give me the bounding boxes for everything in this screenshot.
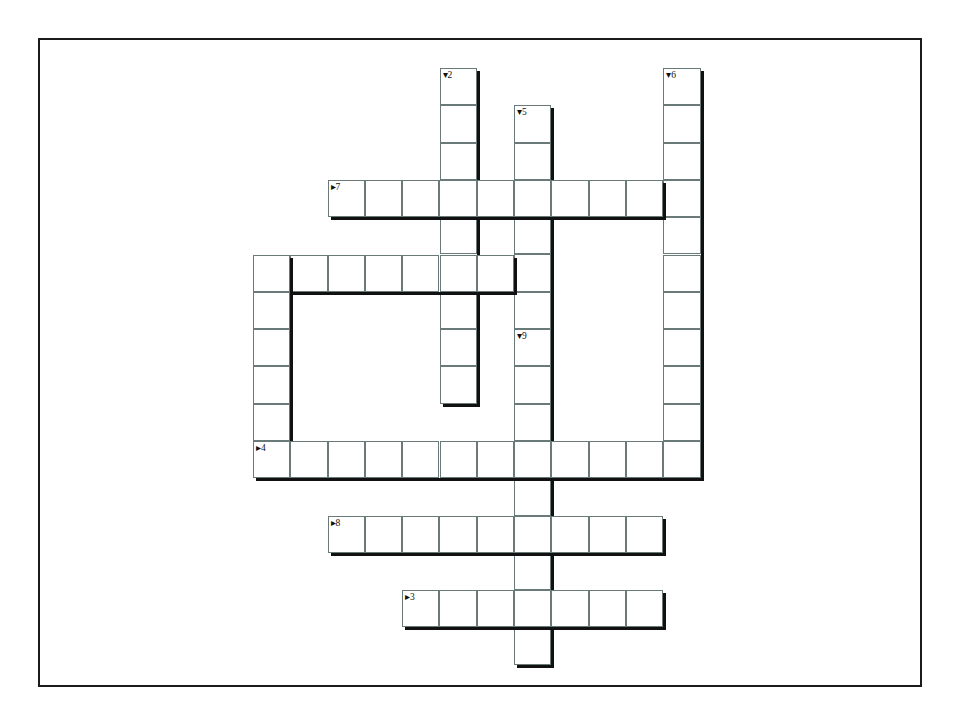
cell[interactable] xyxy=(402,255,439,292)
cell[interactable] xyxy=(514,627,551,664)
cell[interactable] xyxy=(290,441,327,478)
cell[interactable] xyxy=(402,180,439,217)
clue-number-6: ▾6 xyxy=(666,70,676,81)
cell[interactable] xyxy=(253,366,290,403)
cell[interactable] xyxy=(365,255,402,292)
cell[interactable] xyxy=(440,329,477,366)
cell[interactable] xyxy=(514,590,551,627)
word-across-3[interactable]: ▸3 xyxy=(402,590,663,627)
cell[interactable] xyxy=(626,180,663,217)
cell[interactable]: ▸4 xyxy=(253,441,290,478)
clue-number-2: ▾2 xyxy=(443,70,453,81)
clue-number-5: ▾5 xyxy=(517,107,527,118)
word-across-1[interactable]: ▸1/▾10 xyxy=(253,255,514,292)
word-down-2[interactable]: ▾2 xyxy=(440,68,477,404)
cell[interactable] xyxy=(663,143,700,180)
word-across-7[interactable]: ▸7 xyxy=(328,180,664,217)
clue-number-9: ▾9 xyxy=(517,331,527,342)
cell[interactable] xyxy=(514,441,551,478)
cell[interactable] xyxy=(663,441,700,478)
cell[interactable] xyxy=(514,404,551,441)
cell[interactable] xyxy=(365,180,402,217)
cell[interactable] xyxy=(663,292,700,329)
cell[interactable] xyxy=(328,255,365,292)
puzzle-frame: ▾2▾6▾5▸7▸1/▾10▾9▸4▸8▸3 xyxy=(38,38,922,687)
cell[interactable] xyxy=(440,217,477,254)
cell[interactable] xyxy=(551,516,588,553)
cell[interactable] xyxy=(663,404,700,441)
cell[interactable] xyxy=(514,217,551,254)
cell[interactable] xyxy=(589,590,626,627)
cell[interactable]: ▸7 xyxy=(328,180,365,217)
clue-number-3: ▸3 xyxy=(405,592,415,603)
cell[interactable]: ▾5 xyxy=(514,105,551,142)
cell[interactable] xyxy=(514,516,551,553)
cell[interactable] xyxy=(253,292,290,329)
cell[interactable] xyxy=(589,441,626,478)
cell[interactable] xyxy=(440,105,477,142)
cell[interactable] xyxy=(514,254,551,291)
crossword-grid[interactable]: ▾2▾6▾5▸7▸1/▾10▾9▸4▸8▸3 xyxy=(40,40,920,685)
cell[interactable] xyxy=(253,329,290,366)
cell[interactable] xyxy=(439,516,476,553)
cell[interactable] xyxy=(663,255,700,292)
cell[interactable] xyxy=(551,590,588,627)
cell[interactable] xyxy=(514,478,551,515)
cell[interactable] xyxy=(626,590,663,627)
cell[interactable] xyxy=(365,516,402,553)
cell[interactable] xyxy=(328,441,365,478)
cell[interactable] xyxy=(663,105,700,142)
cell[interactable] xyxy=(440,292,477,329)
cell[interactable] xyxy=(477,590,514,627)
cell[interactable] xyxy=(663,217,700,254)
word-down-6[interactable]: ▾6 xyxy=(663,68,700,478)
cell[interactable] xyxy=(402,441,439,478)
clue-number-4: ▸4 xyxy=(256,443,266,454)
cell[interactable] xyxy=(551,180,588,217)
cell[interactable] xyxy=(663,329,700,366)
cell[interactable] xyxy=(514,180,551,217)
cell[interactable] xyxy=(440,255,477,292)
cell[interactable]: ▾9 xyxy=(514,329,551,366)
cell[interactable] xyxy=(514,366,551,403)
cell[interactable] xyxy=(253,404,290,441)
cell[interactable] xyxy=(440,441,477,478)
cell[interactable]: ▸3 xyxy=(402,590,439,627)
cell[interactable]: ▾6 xyxy=(663,68,700,105)
cell[interactable] xyxy=(402,516,439,553)
cell[interactable]: ▾2 xyxy=(440,68,477,105)
cell[interactable] xyxy=(440,366,477,403)
cell[interactable] xyxy=(477,180,514,217)
word-across-4[interactable]: ▸4 xyxy=(253,441,701,478)
cell[interactable] xyxy=(477,255,514,292)
clue-number-8: ▸8 xyxy=(331,518,341,529)
page-root: ▾2▾6▾5▸7▸1/▾10▾9▸4▸8▸3 xyxy=(0,0,960,724)
cell[interactable] xyxy=(439,590,476,627)
cell[interactable] xyxy=(551,441,588,478)
cell[interactable] xyxy=(589,180,626,217)
cell[interactable] xyxy=(477,441,514,478)
cell[interactable]: ▸8 xyxy=(328,516,365,553)
cell[interactable] xyxy=(514,553,551,590)
cell[interactable] xyxy=(477,516,514,553)
cell[interactable] xyxy=(663,366,700,403)
cell[interactable] xyxy=(514,143,551,180)
cell[interactable] xyxy=(626,441,663,478)
cell[interactable] xyxy=(626,516,663,553)
cell[interactable] xyxy=(440,143,477,180)
word-down-10[interactable] xyxy=(253,255,290,442)
cell[interactable] xyxy=(439,180,476,217)
word-across-8[interactable]: ▸8 xyxy=(328,516,664,553)
word-down-5[interactable]: ▾5 xyxy=(514,105,551,329)
cell[interactable] xyxy=(253,255,290,292)
cell[interactable] xyxy=(514,292,551,329)
clue-number-7: ▸7 xyxy=(331,182,341,193)
cell[interactable] xyxy=(589,516,626,553)
cell[interactable] xyxy=(365,441,402,478)
cell[interactable] xyxy=(663,180,700,217)
cell[interactable] xyxy=(290,255,327,292)
